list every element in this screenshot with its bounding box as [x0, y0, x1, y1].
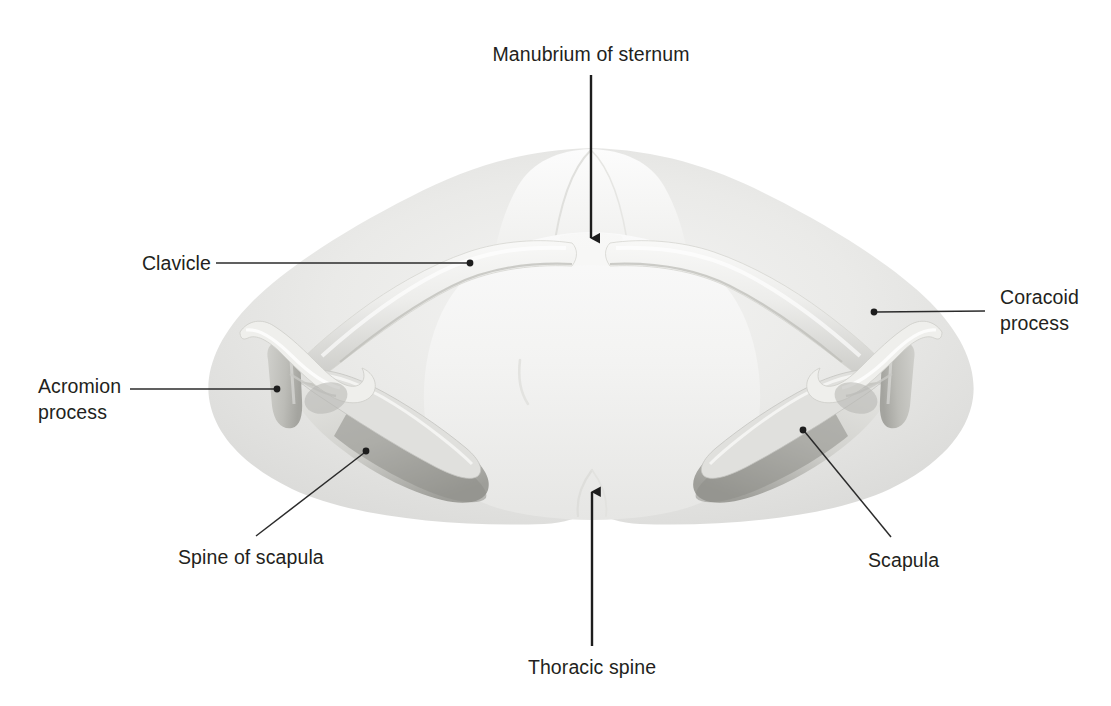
label-thoracic-spine: Thoracic spine	[442, 655, 742, 681]
label-acromion-process: Acromion process	[38, 374, 153, 425]
anatomy-figure: Manubrium of sternum Clavicle Coracoid p…	[0, 0, 1111, 706]
label-scapula: Scapula	[868, 548, 1008, 574]
leader-dot-acromion-process	[274, 386, 281, 393]
label-spine-of-scapula: Spine of scapula	[178, 545, 398, 571]
leader-coracoid-process	[876, 311, 985, 312]
leader-dot-coracoid-process	[871, 309, 878, 316]
label-clavicle: Clavicle	[0, 251, 211, 277]
label-coracoid-process: Coracoid process	[1000, 285, 1111, 336]
leader-dot-clavicle	[467, 260, 474, 267]
leader-dot-scapula	[800, 427, 807, 434]
anatomy-illustration	[0, 0, 1111, 706]
leader-dot-spine-of-scapula	[363, 448, 370, 455]
label-manubrium-of-sternum: Manubrium of sternum	[391, 42, 791, 68]
